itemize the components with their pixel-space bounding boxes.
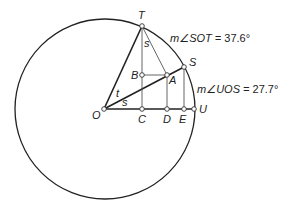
- angle-measure-SOT: m∠SOT = 37.6°: [170, 32, 250, 44]
- angle-label-t: t: [116, 87, 120, 99]
- point-T: [140, 24, 145, 29]
- angle-label-s-at-O: s: [122, 96, 128, 108]
- angle-measure-UOS-prefix: m∠UOS =: [197, 83, 253, 95]
- point-label-U: U: [199, 103, 207, 115]
- point-D: [165, 107, 170, 112]
- point-label-B: B: [131, 69, 138, 81]
- point-B: [140, 73, 145, 78]
- point-O: [102, 107, 107, 112]
- angle-measure-SOT-value: 37.6°: [224, 32, 250, 44]
- point-label-T: T: [138, 9, 146, 21]
- point-E: [182, 107, 187, 112]
- point-label-E: E: [179, 113, 187, 125]
- diagram-canvas: OTSUABCDE t s s m∠SOT = 37.6° m∠UOS = 27…: [0, 0, 287, 210]
- point-label-O: O: [92, 109, 101, 121]
- angle-measure-SOT-prefix: m∠SOT =: [170, 32, 224, 44]
- point-S: [182, 65, 187, 70]
- point-label-S: S: [189, 56, 197, 68]
- angle-measure-UOS-value: 27.7°: [253, 83, 279, 95]
- angle-measure-UOS: m∠UOS = 27.7°: [197, 83, 278, 95]
- point-U: [192, 107, 197, 112]
- point-label-A: A: [168, 74, 176, 86]
- angle-label-s-at-T: s: [144, 37, 150, 49]
- point-label-D: D: [163, 113, 171, 125]
- point-labels: OTSUABCDE: [92, 9, 207, 125]
- point-C: [140, 107, 145, 112]
- point-label-C: C: [138, 113, 146, 125]
- geometry-diagram: OTSUABCDE t s s m∠SOT = 37.6° m∠UOS = 27…: [0, 0, 287, 210]
